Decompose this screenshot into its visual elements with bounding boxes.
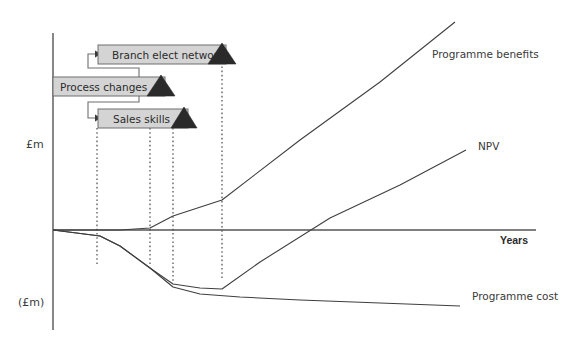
- milestone-label-sales-skills: Sales skills: [113, 113, 170, 125]
- y-axis-bottom-label: (£m): [18, 296, 44, 309]
- programme-cost-curve: [53, 230, 460, 306]
- programme-cost-label: Programme cost: [472, 290, 558, 302]
- x-axis-label: Years: [500, 234, 528, 246]
- milestone-sales-skills[interactable]: Sales skills: [98, 107, 197, 128]
- milestone-branch-elect-network[interactable]: Branch elect network: [98, 43, 236, 64]
- curves-group: [53, 22, 466, 306]
- milestone-process-changes[interactable]: Process changes: [53, 75, 175, 96]
- npv-label: NPV: [478, 140, 500, 152]
- milestone-label-process-changes: Process changes: [60, 81, 147, 93]
- milestone-label-branch-elect-network: Branch elect network: [112, 49, 225, 61]
- diagram-canvas: £m (£m) Years Programme benefits NPV Pro…: [0, 0, 578, 346]
- benefits-realisation-diagram: £m (£m) Years Programme benefits NPV Pro…: [0, 0, 578, 346]
- programme-benefits-label: Programme benefits: [432, 48, 539, 60]
- y-axis-top-label: £m: [26, 138, 44, 151]
